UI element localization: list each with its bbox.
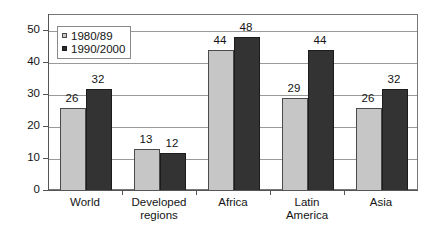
bar [282,98,308,191]
x-axis-line [48,190,418,191]
x-axis-label: Asia [344,196,418,209]
x-tick [122,190,123,195]
bar [356,108,382,191]
y-tick-label-10: 10 [8,152,40,164]
legend-item-0: 1980/89 [62,29,125,42]
bar-value-label: 48 [227,22,265,34]
x-axis-label: LatinAmerica [270,196,344,222]
bar-value-label: 26 [349,93,387,105]
bar [60,108,86,191]
y-tick-40 [43,62,48,63]
bar [308,50,334,191]
y-tick-50 [43,30,48,31]
bar-value-label: 32 [79,74,117,86]
y-tick-10 [43,158,48,159]
legend-label-0: 1980/89 [71,30,113,42]
x-tick [196,190,197,195]
x-axis-label-line: America [270,209,344,222]
legend-label-1: 1990/2000 [71,43,125,55]
x-axis-label: World [48,196,122,209]
y-tick-label-20: 20 [8,120,40,132]
bar-value-label: 12 [153,138,191,150]
x-axis-label-line: Asia [344,196,418,209]
x-tick [344,190,345,195]
bar-chart: 01020304050 WorldDevelopedregionsAfricaL… [0,0,433,236]
x-axis-label: Africa [196,196,270,209]
legend-item-1: 1990/2000 [62,42,125,55]
bar-value-label: 32 [375,74,413,86]
legend-swatch-icon-0 [62,33,67,38]
y-tick-label-40: 40 [8,56,40,68]
bar [160,153,186,191]
x-axis-label-line: regions [122,209,196,222]
x-axis-label-line: World [48,196,122,209]
x-axis-label-line: Developed [122,196,196,209]
bar [208,50,234,191]
y-tick-label-30: 30 [8,88,40,100]
x-axis-label: Developedregions [122,196,196,222]
x-axis-label-line: Latin [270,196,344,209]
legend: 1980/89 1990/2000 [57,26,131,59]
x-axis-label-line: Africa [196,196,270,209]
y-tick-0 [43,190,48,191]
bar-value-label: 29 [275,83,313,95]
bar [234,37,260,191]
y-tick-30 [43,94,48,95]
y-axis-line [48,14,49,190]
y-tick-label-50: 50 [8,24,40,36]
x-tick [270,190,271,195]
bar-value-label: 26 [53,93,91,105]
bar-value-label: 44 [301,35,339,47]
legend-swatch-icon-1 [62,46,67,51]
y-tick-20 [43,126,48,127]
bar-value-label: 44 [201,35,239,47]
y-tick-label-0: 0 [8,184,40,196]
bar [134,149,160,191]
